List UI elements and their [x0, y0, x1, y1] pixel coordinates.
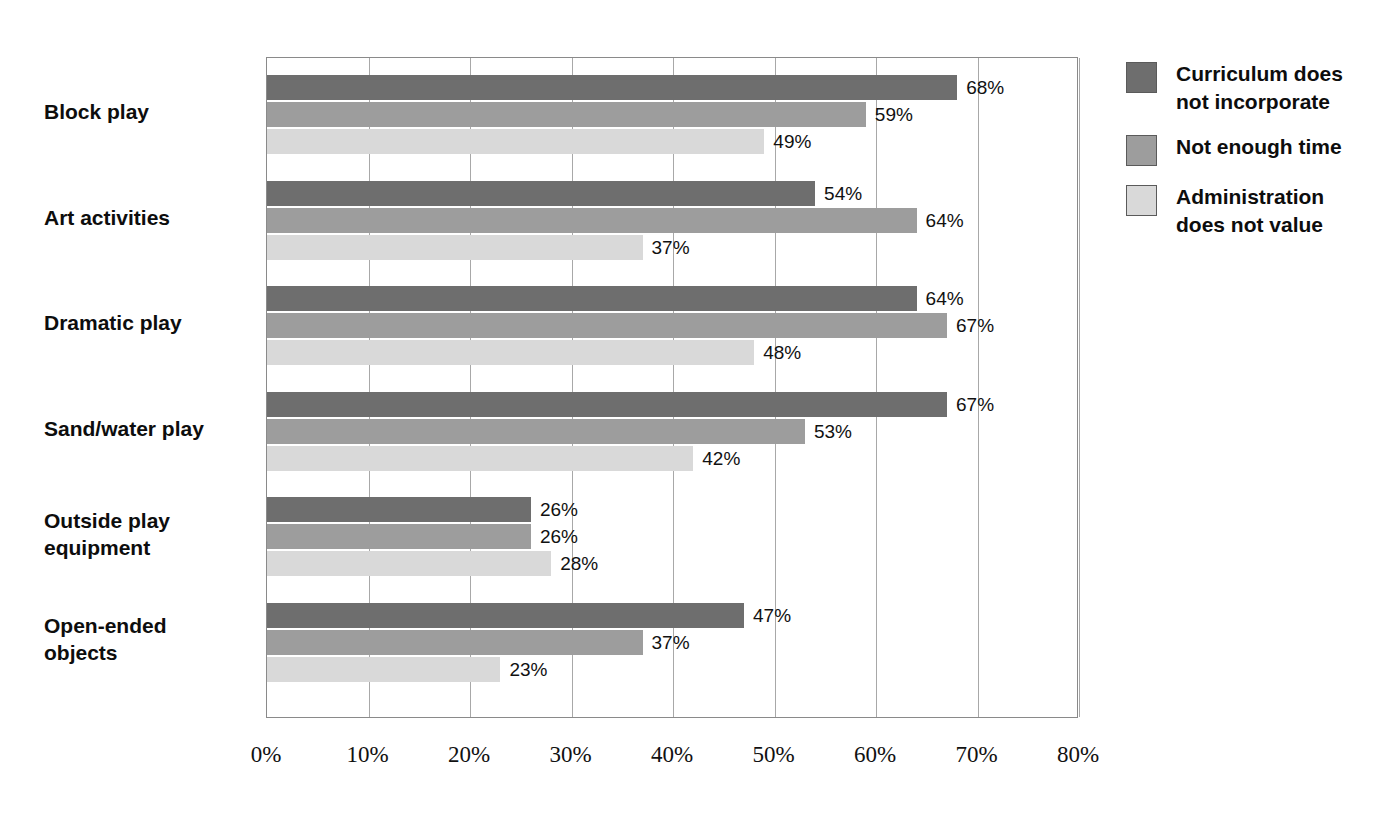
bar-group: 64%67%48%: [267, 286, 1077, 365]
x-tick-label: 20%: [448, 742, 490, 768]
bar-value-label: 54%: [824, 182, 862, 205]
bar-row: 49%: [267, 129, 1077, 154]
bar-value-label: 28%: [560, 552, 598, 575]
x-tick-label: 80%: [1057, 742, 1099, 768]
legend-item[interactable]: Not enough time: [1126, 133, 1376, 166]
bar[interactable]: [267, 181, 815, 206]
bar-value-label: 53%: [814, 420, 852, 443]
bar-group: 68%59%49%: [267, 75, 1077, 154]
bar-row: 28%: [267, 551, 1077, 576]
bar-row: 26%: [267, 524, 1077, 549]
x-axis-tick-labels: 0%10%20%30%40%50%60%70%80%: [266, 742, 1078, 776]
bar-value-label: 42%: [702, 447, 740, 470]
bar-row: 48%: [267, 340, 1077, 365]
bar-value-label: 26%: [540, 525, 578, 548]
bar[interactable]: [267, 524, 531, 549]
category-label: Block play: [44, 98, 259, 125]
bar-value-label: 67%: [956, 393, 994, 416]
bar-row: 67%: [267, 392, 1077, 417]
bar[interactable]: [267, 497, 531, 522]
bar-row: 26%: [267, 497, 1077, 522]
bar-row: 64%: [267, 286, 1077, 311]
bar-row: 42%: [267, 446, 1077, 471]
bar-value-label: 49%: [773, 130, 811, 153]
bar[interactable]: [267, 446, 693, 471]
bar[interactable]: [267, 419, 805, 444]
bar-group: 67%53%42%: [267, 392, 1077, 471]
legend-item[interactable]: Curriculum does not incorporate: [1126, 60, 1376, 116]
bar[interactable]: [267, 286, 917, 311]
x-tick-label: 70%: [955, 742, 997, 768]
bar[interactable]: [267, 657, 500, 682]
bar-value-label: 59%: [875, 103, 913, 126]
legend-swatch: [1126, 135, 1157, 166]
category-label: Open-endedobjects: [44, 612, 259, 666]
bar-row: 23%: [267, 657, 1077, 682]
bar-value-label: 64%: [926, 287, 964, 310]
x-tick-label: 0%: [251, 742, 282, 768]
plot-area: 68%59%49%54%64%37%64%67%48%67%53%42%26%2…: [266, 57, 1078, 718]
x-tick-label: 40%: [651, 742, 693, 768]
bar-value-label: 37%: [652, 631, 690, 654]
chart-page: Block playArt activitiesDramatic playSan…: [0, 0, 1390, 824]
bar-row: 37%: [267, 630, 1077, 655]
category-label: Outside playequipment: [44, 507, 259, 561]
bar-group: 47%37%23%: [267, 603, 1077, 682]
bar[interactable]: [267, 208, 917, 233]
bar-row: 53%: [267, 419, 1077, 444]
bar-row: 68%: [267, 75, 1077, 100]
bar-row: 59%: [267, 102, 1077, 127]
bar[interactable]: [267, 392, 947, 417]
bar-value-label: 23%: [509, 658, 547, 681]
bar-value-label: 48%: [763, 341, 801, 364]
bar-value-label: 37%: [652, 236, 690, 259]
bar[interactable]: [267, 551, 551, 576]
bar-row: 54%: [267, 181, 1077, 206]
legend-item[interactable]: Administration does not value: [1126, 183, 1376, 239]
gridline-80pct: [1079, 58, 1080, 717]
bar-value-label: 64%: [926, 209, 964, 232]
bar[interactable]: [267, 630, 643, 655]
category-label: Art activities: [44, 204, 259, 231]
chart-legend: Curriculum does not incorporateNot enoug…: [1126, 60, 1376, 256]
x-tick-label: 30%: [549, 742, 591, 768]
bar-group: 54%64%37%: [267, 181, 1077, 260]
bar[interactable]: [267, 603, 744, 628]
bar-group: 26%26%28%: [267, 497, 1077, 576]
bar[interactable]: [267, 340, 754, 365]
bar-value-label: 67%: [956, 314, 994, 337]
bar-row: 47%: [267, 603, 1077, 628]
bar-value-label: 47%: [753, 604, 791, 627]
bar[interactable]: [267, 313, 947, 338]
category-label: Dramatic play: [44, 309, 259, 336]
legend-label: Not enough time: [1176, 133, 1342, 161]
bar[interactable]: [267, 235, 643, 260]
bar-value-label: 68%: [966, 76, 1004, 99]
legend-swatch: [1126, 185, 1157, 216]
x-tick-label: 50%: [752, 742, 794, 768]
legend-label: Curriculum does not incorporate: [1176, 60, 1366, 116]
bar-value-label: 26%: [540, 498, 578, 521]
bar[interactable]: [267, 75, 957, 100]
category-label: Sand/water play: [44, 415, 259, 442]
legend-swatch: [1126, 62, 1157, 93]
legend-label: Administration does not value: [1176, 183, 1366, 239]
x-tick-label: 10%: [346, 742, 388, 768]
bar-row: 37%: [267, 235, 1077, 260]
bar-row: 64%: [267, 208, 1077, 233]
bar-row: 67%: [267, 313, 1077, 338]
x-tick-label: 60%: [854, 742, 896, 768]
bar[interactable]: [267, 102, 866, 127]
bar[interactable]: [267, 129, 764, 154]
